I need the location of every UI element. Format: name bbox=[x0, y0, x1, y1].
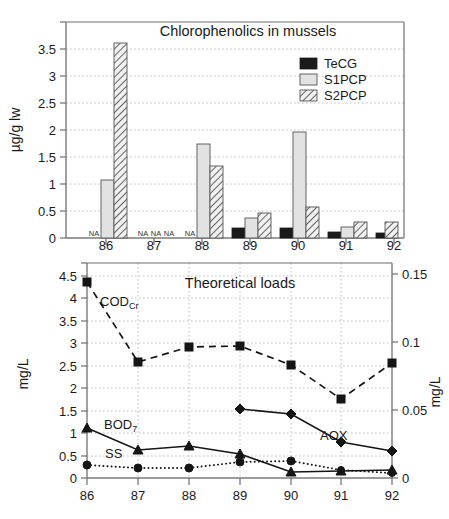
series-cod bbox=[83, 278, 396, 403]
bottom-right-axis-title: mg/L bbox=[427, 376, 443, 407]
series-label-ss: SS bbox=[105, 446, 123, 461]
top-ytick-2: 2 bbox=[49, 123, 56, 138]
marker-aox-89 bbox=[235, 404, 245, 414]
bar-group-90 bbox=[280, 132, 319, 238]
bar-90-tecg bbox=[280, 228, 293, 238]
top-ytick-3: 3 bbox=[49, 69, 56, 84]
top-ytick-1.5: 1.5 bbox=[38, 150, 56, 165]
bar-90-s2pcp bbox=[306, 207, 319, 238]
bar-89-s1pcp bbox=[245, 218, 258, 238]
marker-cod-86 bbox=[83, 278, 91, 286]
top-xtick-92: 92 bbox=[387, 238, 401, 252]
marker-cod-87 bbox=[134, 358, 142, 366]
bottom-xtick-92: 92 bbox=[385, 488, 399, 503]
bottom-left-ytick-3: 3 bbox=[70, 336, 77, 351]
top-xtick-89: 89 bbox=[243, 238, 257, 252]
marker-ss-87 bbox=[134, 464, 142, 472]
top-chart-svg: 0 0.5 1 1.5 2 2.5 3 3.5 µg/g lw Chloroph… bbox=[0, 0, 449, 252]
bar-89-tecg bbox=[232, 228, 245, 238]
bottom-y-ticks-left bbox=[81, 263, 87, 478]
top-xtick-87: 87 bbox=[147, 238, 161, 252]
bottom-left-ytick-2.5: 2.5 bbox=[59, 359, 77, 374]
bottom-left-ytick-0: 0 bbox=[70, 471, 77, 486]
bar-group-87: NA NA NA bbox=[138, 229, 174, 238]
bar-group-88: NA bbox=[185, 144, 223, 238]
bar-90-s1pcp bbox=[293, 132, 306, 238]
top-xtick-88: 88 bbox=[195, 238, 209, 252]
legend-swatch-tecg bbox=[300, 58, 317, 69]
bottom-left-axis-title: mg/L bbox=[15, 358, 31, 389]
marker-cod-91 bbox=[337, 395, 345, 403]
bottom-gridlines-vertical bbox=[138, 263, 341, 478]
marker-ss-92 bbox=[389, 470, 396, 477]
na-label-87-s2pcp: NA bbox=[164, 229, 174, 238]
marker-ss-89 bbox=[236, 458, 244, 466]
bottom-xtick-89: 89 bbox=[233, 488, 247, 503]
figure-container: 0 0.5 1 1.5 2 2.5 3 3.5 µg/g lw Chloroph… bbox=[0, 0, 449, 519]
chart-chlorophenolics: 0 0.5 1 1.5 2 2.5 3 3.5 µg/g lw Chloroph… bbox=[0, 0, 449, 252]
legend-swatch-s2pcp bbox=[300, 90, 317, 101]
bottom-right-ytick-0.05: 0.05 bbox=[402, 403, 427, 418]
series-label-cod: CODCr bbox=[100, 294, 138, 311]
top-ytick-1: 1 bbox=[49, 177, 56, 192]
legend-swatch-s1pcp bbox=[300, 74, 317, 85]
bar-91-s2pcp bbox=[354, 222, 367, 238]
bottom-chart-title: Theoretical loads bbox=[185, 275, 295, 291]
bar-86-s2pcp bbox=[114, 43, 127, 238]
series-label-bod: BOD7 bbox=[104, 417, 137, 434]
top-ytick-0: 0 bbox=[49, 231, 56, 246]
na-label-87-s1pcp: NA bbox=[151, 229, 161, 238]
series-aox bbox=[235, 404, 397, 456]
legend-label-tecg: TeCG bbox=[324, 56, 357, 71]
top-xtick-91: 91 bbox=[339, 238, 353, 252]
series-label-aox: AOX bbox=[320, 428, 348, 443]
bottom-chart-svg: 0 0.5 1 1.5 2 2.5 3 3.5 4 4.5 mg/L 0 0.0… bbox=[0, 252, 449, 519]
marker-ss-90 bbox=[287, 457, 295, 465]
bottom-left-ytick-1: 1 bbox=[70, 426, 77, 441]
marker-ss-91 bbox=[338, 467, 345, 474]
bottom-right-ytick-0.15: 0.15 bbox=[402, 267, 427, 282]
bottom-left-ytick-1.5: 1.5 bbox=[59, 404, 77, 419]
legend-label-s1pcp: S1PCP bbox=[324, 72, 367, 87]
bottom-left-ytick-2: 2 bbox=[70, 381, 77, 396]
top-ytick-2.5: 2.5 bbox=[38, 96, 56, 111]
top-xtick-90: 90 bbox=[291, 238, 305, 252]
bottom-left-ytick-0.5: 0.5 bbox=[59, 449, 77, 464]
bar-91-s1pcp bbox=[341, 227, 354, 238]
bar-88-s2pcp bbox=[210, 166, 223, 238]
bar-group-89 bbox=[232, 213, 271, 238]
bottom-xtick-91: 91 bbox=[334, 488, 348, 503]
legend-label-s2pcp: S2PCP bbox=[324, 88, 367, 103]
bar-88-s1pcp bbox=[197, 144, 210, 238]
bottom-xtick-86: 86 bbox=[80, 488, 94, 503]
chart-theoretical-loads: 0 0.5 1 1.5 2 2.5 3 3.5 4 4.5 mg/L 0 0.0… bbox=[0, 252, 449, 519]
bar-group-86: NA bbox=[89, 43, 127, 238]
marker-cod-88 bbox=[185, 343, 193, 351]
top-ytick-0.5: 0.5 bbox=[38, 204, 56, 219]
bottom-xtick-90: 90 bbox=[284, 488, 298, 503]
bar-89-s2pcp bbox=[258, 213, 271, 238]
top-y-axis-title: µg/g lw bbox=[7, 107, 23, 153]
bar-group-91 bbox=[328, 222, 367, 238]
bottom-xtick-87: 87 bbox=[131, 488, 145, 503]
na-label-88-tecg: NA bbox=[185, 229, 195, 238]
na-label-87-tecg: NA bbox=[138, 229, 148, 238]
bar-86-s1pcp bbox=[101, 180, 114, 238]
marker-cod-89 bbox=[236, 342, 244, 350]
series-ss bbox=[83, 457, 396, 477]
top-xtick-86: 86 bbox=[99, 238, 113, 252]
marker-bod-86 bbox=[82, 423, 92, 432]
top-chart-legend: TeCG S1PCP S2PCP bbox=[300, 56, 367, 103]
top-chart-title: Chlorophenolics in mussels bbox=[160, 23, 337, 39]
bottom-right-ytick-0: 0 bbox=[402, 471, 409, 486]
na-label-86-tecg: NA bbox=[89, 229, 99, 238]
top-y-ticks bbox=[60, 22, 66, 238]
bottom-x-ticks bbox=[87, 478, 392, 485]
bar-group-92 bbox=[376, 222, 398, 238]
bottom-xtick-88: 88 bbox=[182, 488, 196, 503]
marker-cod-92 bbox=[388, 359, 396, 367]
bottom-left-ytick-4: 4 bbox=[70, 291, 77, 306]
bottom-left-ytick-3.5: 3.5 bbox=[59, 314, 77, 329]
top-ytick-3.5: 3.5 bbox=[38, 42, 56, 57]
marker-aox-92 bbox=[387, 446, 397, 456]
